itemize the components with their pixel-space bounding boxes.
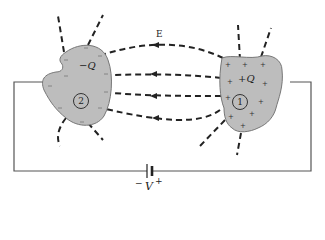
- svg-text:+: +: [225, 94, 231, 102]
- field-lines-between: [102, 45, 223, 120]
- svg-text:+: +: [262, 80, 268, 88]
- charge-label-negative: −Q: [79, 61, 96, 71]
- svg-text:+: +: [225, 61, 231, 69]
- svg-text:+: +: [240, 122, 246, 130]
- field-arrowheads: [150, 42, 159, 121]
- svg-text:+: +: [249, 110, 255, 118]
- svg-text:+: +: [242, 61, 248, 69]
- battery-label-v: V: [145, 181, 153, 192]
- svg-text:+: +: [258, 98, 264, 106]
- svg-text:+: +: [260, 61, 266, 69]
- conductor-number-2: 2: [73, 93, 89, 109]
- conductor-2-shape: [43, 45, 112, 125]
- battery-icon: [147, 164, 152, 178]
- battery-minus-sign: −: [135, 179, 143, 188]
- field-label-e: E: [156, 30, 163, 39]
- svg-text:+: +: [228, 113, 234, 121]
- svg-text:+: +: [227, 78, 233, 86]
- charge-label-positive: +Q: [238, 74, 255, 84]
- battery-plus-sign: +: [155, 177, 163, 186]
- conductor-number-1: 1: [232, 94, 248, 110]
